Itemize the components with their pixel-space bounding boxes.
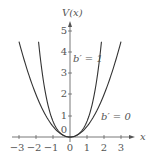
svg-text:5: 5	[61, 25, 67, 36]
svg-text:−2: −2	[27, 142, 42, 153]
svg-text:2: 2	[101, 142, 107, 153]
svg-text:1: 1	[61, 110, 67, 121]
svg-text:4: 4	[61, 46, 67, 57]
svg-text:1: 1	[84, 142, 90, 153]
y-axis-arrow-icon	[68, 21, 72, 27]
annotation-b1: b′ = 1	[73, 53, 103, 64]
x-axis-arrow-icon	[129, 135, 135, 139]
svg-text:−1: −1	[44, 142, 59, 153]
svg-text:2: 2	[61, 88, 67, 99]
svg-text:0: 0	[67, 142, 73, 153]
y-axis-label: V(x)	[62, 7, 83, 18]
svg-text:0: 0	[61, 124, 67, 135]
x-axis-label: x	[140, 131, 146, 142]
potential-chart: −3 −2 −1 0 1 2 3 0 1 2 3 4 5 V(x) x b′ =…	[0, 0, 151, 158]
svg-text:3: 3	[118, 142, 124, 153]
y-tick-labels: 0 1 2 3 4 5	[61, 25, 67, 135]
svg-text:3: 3	[61, 67, 67, 78]
x-tick-labels: −3 −2 −1 0 1 2 3	[10, 142, 125, 153]
annotation-b0: b′ = 0	[101, 111, 131, 122]
svg-text:−3: −3	[10, 142, 25, 153]
